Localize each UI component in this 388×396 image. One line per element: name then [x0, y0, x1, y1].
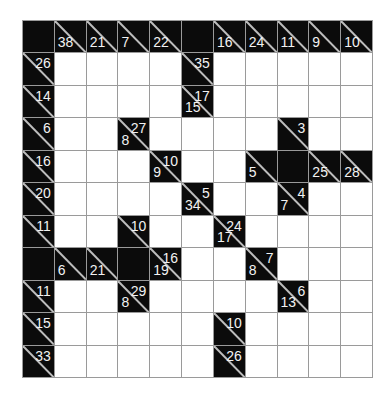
- entry-cell[interactable]: [118, 346, 149, 377]
- entry-cell[interactable]: [341, 346, 372, 377]
- entry-cell[interactable]: [55, 281, 86, 312]
- entry-cell[interactable]: [182, 151, 213, 182]
- across-clue: 11: [36, 284, 51, 298]
- entry-cell[interactable]: [341, 118, 372, 149]
- entry-cell[interactable]: [309, 53, 340, 84]
- entry-cell[interactable]: [309, 86, 340, 117]
- down-clue: 13: [281, 295, 297, 309]
- entry-cell[interactable]: [341, 86, 372, 117]
- clue-cell: 28: [341, 151, 372, 182]
- entry-cell[interactable]: [87, 183, 118, 214]
- entry-cell[interactable]: [150, 86, 181, 117]
- entry-cell[interactable]: [246, 53, 277, 84]
- entry-cell[interactable]: [150, 53, 181, 84]
- entry-cell[interactable]: [87, 86, 118, 117]
- entry-cell[interactable]: [278, 86, 309, 117]
- down-clue: 22: [153, 35, 169, 49]
- entry-cell[interactable]: [309, 281, 340, 312]
- clue-cell: 11: [23, 216, 54, 247]
- entry-cell[interactable]: [341, 313, 372, 344]
- entry-cell[interactable]: [246, 216, 277, 247]
- entry-cell[interactable]: [87, 281, 118, 312]
- entry-cell[interactable]: [341, 53, 372, 84]
- across-clue: 15: [35, 316, 51, 330]
- entry-cell[interactable]: [246, 346, 277, 377]
- entry-cell[interactable]: [150, 183, 181, 214]
- across-clue: 26: [226, 349, 242, 363]
- entry-cell[interactable]: [150, 118, 181, 149]
- across-clue: 14: [35, 89, 51, 103]
- entry-cell[interactable]: [55, 346, 86, 377]
- clue-cell: 15: [23, 313, 54, 344]
- entry-cell[interactable]: [118, 313, 149, 344]
- entry-cell[interactable]: [214, 183, 245, 214]
- across-clue: 33: [35, 349, 51, 363]
- entry-cell[interactable]: [87, 118, 118, 149]
- entry-cell[interactable]: [182, 346, 213, 377]
- entry-cell[interactable]: [278, 248, 309, 279]
- entry-cell[interactable]: [278, 346, 309, 377]
- entry-cell[interactable]: [214, 248, 245, 279]
- entry-cell[interactable]: [309, 183, 340, 214]
- entry-cell[interactable]: [150, 313, 181, 344]
- entry-cell[interactable]: [55, 53, 86, 84]
- down-clue: 9: [153, 165, 161, 179]
- entry-cell[interactable]: [341, 183, 372, 214]
- entry-cell[interactable]: [55, 86, 86, 117]
- entry-cell[interactable]: [118, 53, 149, 84]
- entry-cell[interactable]: [309, 346, 340, 377]
- entry-cell[interactable]: [246, 313, 277, 344]
- entry-cell[interactable]: [182, 118, 213, 149]
- entry-cell[interactable]: [246, 118, 277, 149]
- entry-cell[interactable]: [150, 216, 181, 247]
- entry-cell[interactable]: [214, 281, 245, 312]
- entry-cell[interactable]: [246, 183, 277, 214]
- clue-cell: 16: [23, 151, 54, 182]
- entry-cell[interactable]: [182, 281, 213, 312]
- entry-cell[interactable]: [278, 53, 309, 84]
- down-clue: 8: [121, 133, 129, 147]
- blocked-cell: [23, 248, 54, 279]
- entry-cell[interactable]: [214, 86, 245, 117]
- entry-cell[interactable]: [87, 53, 118, 84]
- entry-cell[interactable]: [150, 281, 181, 312]
- entry-cell[interactable]: [87, 151, 118, 182]
- entry-cell[interactable]: [214, 53, 245, 84]
- entry-cell[interactable]: [55, 151, 86, 182]
- entry-cell[interactable]: [118, 86, 149, 117]
- entry-cell[interactable]: [118, 183, 149, 214]
- entry-cell[interactable]: [309, 248, 340, 279]
- entry-cell[interactable]: [87, 216, 118, 247]
- entry-cell[interactable]: [55, 118, 86, 149]
- clue-cell: 5: [246, 151, 277, 182]
- entry-cell[interactable]: [55, 183, 86, 214]
- across-clue: 10: [131, 219, 147, 233]
- entry-cell[interactable]: [214, 118, 245, 149]
- entry-cell[interactable]: [278, 313, 309, 344]
- entry-cell[interactable]: [309, 313, 340, 344]
- entry-cell[interactable]: [246, 86, 277, 117]
- entry-cell[interactable]: [309, 118, 340, 149]
- entry-cell[interactable]: [341, 281, 372, 312]
- entry-cell[interactable]: [182, 313, 213, 344]
- entry-cell[interactable]: [150, 346, 181, 377]
- clue-cell: 11: [278, 21, 309, 52]
- entry-cell[interactable]: [182, 248, 213, 279]
- entry-cell[interactable]: [55, 313, 86, 344]
- across-clue: 3: [298, 121, 306, 135]
- clue-cell: 26: [214, 346, 245, 377]
- entry-cell[interactable]: [341, 248, 372, 279]
- blocked-cell: [23, 21, 54, 52]
- entry-cell[interactable]: [341, 216, 372, 247]
- entry-cell[interactable]: [246, 281, 277, 312]
- entry-cell[interactable]: [118, 151, 149, 182]
- entry-cell[interactable]: [87, 313, 118, 344]
- entry-cell[interactable]: [309, 216, 340, 247]
- entry-cell[interactable]: [214, 151, 245, 182]
- entry-cell[interactable]: [87, 346, 118, 377]
- down-clue: 5: [249, 165, 257, 179]
- down-clue: 25: [312, 165, 328, 179]
- entry-cell[interactable]: [278, 216, 309, 247]
- entry-cell[interactable]: [55, 216, 86, 247]
- entry-cell[interactable]: [182, 216, 213, 247]
